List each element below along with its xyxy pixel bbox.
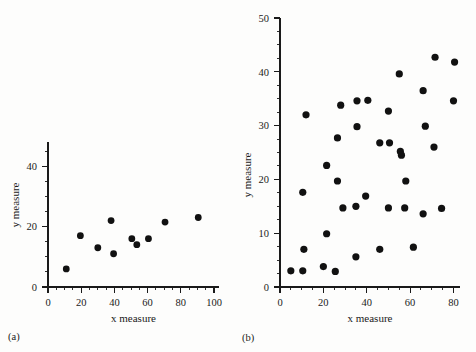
panel-b-x-axis-title: x measure <box>348 312 393 324</box>
panel-b-letter: (b) <box>242 332 255 344</box>
data-point <box>353 97 360 104</box>
data-point <box>385 204 392 211</box>
panel-b-xtick-label: 40 <box>361 297 372 308</box>
panel-b-plot: 02040608001020304050 x measure y measure… <box>238 0 476 352</box>
panel-a-xtick-label: 100 <box>206 297 222 308</box>
panel-a-ytick-label: 40 <box>27 161 38 172</box>
data-point <box>299 267 306 274</box>
panel-a-xtick-label: 0 <box>45 297 50 308</box>
panel-a-axes <box>48 142 219 287</box>
data-point <box>422 123 429 130</box>
data-point <box>337 102 344 109</box>
data-point <box>334 134 341 141</box>
data-point <box>287 267 294 274</box>
data-point <box>334 177 341 184</box>
panel-a-data-points <box>63 214 202 272</box>
panel-b-y-axis-title: y measure <box>241 152 253 197</box>
data-point <box>398 152 405 159</box>
panel-b-ytick-label: 30 <box>259 120 270 131</box>
data-point <box>195 214 202 221</box>
panel-a-ytick-label: 0 <box>32 282 37 293</box>
panel-b-ytick-label: 10 <box>259 228 270 239</box>
data-point <box>420 210 427 217</box>
data-point <box>352 253 359 260</box>
panel-a-xtick-label: 20 <box>76 297 87 308</box>
data-point <box>385 107 392 114</box>
data-point <box>386 139 393 146</box>
panel-b-ticks <box>274 18 453 293</box>
data-point <box>108 217 115 224</box>
data-point <box>145 235 152 242</box>
data-point <box>323 230 330 237</box>
data-point <box>94 244 101 251</box>
data-point <box>450 97 457 104</box>
data-point <box>362 192 369 199</box>
panel-a: 02040608010002040 x measure y measure (a… <box>0 0 238 352</box>
data-point <box>352 203 359 210</box>
data-point <box>332 268 339 275</box>
data-point <box>323 162 330 169</box>
panel-a-letter: (a) <box>8 331 20 343</box>
panel-a-xtick-label: 80 <box>176 297 187 308</box>
panel-b-xtick-label: 0 <box>277 297 282 308</box>
data-point <box>364 97 371 104</box>
data-point <box>402 177 409 184</box>
panel-a-plot: 02040608010002040 x measure y measure (a… <box>0 0 238 352</box>
data-point <box>438 205 445 212</box>
panel-a-y-axis-title: y measure <box>9 182 21 227</box>
panel-a-xtick-label: 40 <box>109 297 120 308</box>
data-point <box>320 263 327 270</box>
panel-a-tick-labels: 02040608010002040 <box>27 161 222 308</box>
panel-a-ytick-label: 20 <box>27 221 38 232</box>
data-point <box>302 111 309 118</box>
panel-b-tick-labels: 02040608001020304050 <box>259 13 459 308</box>
data-point <box>451 59 458 66</box>
data-point <box>299 189 306 196</box>
data-point <box>77 232 84 239</box>
panel-b-ytick-label: 40 <box>259 67 270 78</box>
data-point <box>353 123 360 130</box>
panel-b-data-points <box>287 54 458 275</box>
data-point <box>431 54 438 61</box>
panel-b-xtick-label: 60 <box>405 297 416 308</box>
data-point <box>300 246 307 253</box>
data-point <box>162 219 169 226</box>
panel-b-ytick-label: 50 <box>259 13 270 24</box>
panel-b-ytick-label: 20 <box>259 174 270 185</box>
panel-b-xtick-label: 80 <box>448 297 459 308</box>
data-point <box>128 235 135 242</box>
data-point <box>339 204 346 211</box>
scatterplot-figure: 02040608010002040 x measure y measure (a… <box>0 0 476 352</box>
data-point <box>63 265 70 272</box>
panel-b-ytick-label: 0 <box>264 282 269 293</box>
data-point <box>401 204 408 211</box>
data-point <box>376 246 383 253</box>
data-point <box>133 241 140 248</box>
panel-b: 02040608001020304050 x measure y measure… <box>238 0 476 352</box>
data-point <box>420 87 427 94</box>
data-point <box>430 144 437 151</box>
panel-a-x-axis-title: x measure <box>111 312 156 324</box>
data-point <box>410 244 417 251</box>
panel-a-xtick-label: 60 <box>142 297 153 308</box>
panel-b-xtick-label: 20 <box>318 297 329 308</box>
data-point <box>376 139 383 146</box>
data-point <box>110 250 117 257</box>
data-point <box>396 70 403 77</box>
